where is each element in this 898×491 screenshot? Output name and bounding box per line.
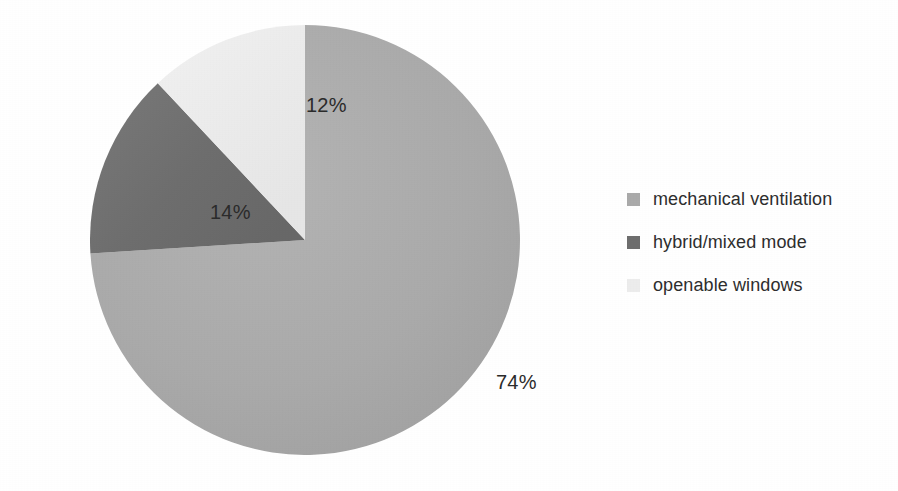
legend-item-openable-windows: openable windows: [627, 274, 877, 317]
pie-chart-svg: [90, 25, 520, 455]
pie-value-label-hybrid-mixed-mode: 14%: [210, 202, 251, 222]
legend-swatch-icon-openable-windows: [627, 279, 640, 292]
legend-label-mechanical-ventilation: mechanical ventilation: [653, 188, 832, 210]
pie-chart-plot-area: 74% 14% 12%: [90, 25, 520, 455]
legend-swatch-icon-mechanical-ventilation: [627, 193, 640, 206]
pie-chart-figure: 74% 14% 12% mechanical ventilation hybri…: [0, 0, 898, 491]
legend-label-hybrid-mixed-mode: hybrid/mixed mode: [653, 231, 807, 253]
chart-legend: mechanical ventilation hybrid/mixed mode…: [627, 188, 877, 317]
legend-item-hybrid-mixed-mode: hybrid/mixed mode: [627, 231, 877, 274]
legend-swatch-icon-hybrid-mixed-mode: [627, 236, 640, 249]
pie-value-label-openable-windows: 12%: [306, 95, 347, 115]
legend-item-mechanical-ventilation: mechanical ventilation: [627, 188, 877, 231]
pie-value-label-mechanical-ventilation: 74%: [496, 372, 537, 392]
legend-label-openable-windows: openable windows: [653, 274, 803, 296]
